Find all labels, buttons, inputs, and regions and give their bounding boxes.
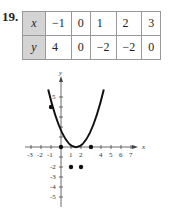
table-cell: −1	[46, 12, 72, 36]
svg-text:5: 5	[52, 93, 56, 101]
svg-text:1: 1	[69, 151, 73, 159]
svg-text:-2: -2	[37, 151, 43, 159]
table-cell: 2	[116, 12, 142, 36]
table-cell: −2	[116, 36, 142, 60]
svg-text:-3: -3	[50, 173, 56, 181]
row-header-y: y	[23, 36, 46, 60]
svg-text:2: 2	[79, 151, 83, 159]
table-cell: 3	[142, 12, 161, 36]
table-cell: 0	[71, 12, 90, 36]
parabola-curve	[48, 90, 104, 148]
point-marker	[59, 145, 63, 149]
svg-text:-2: -2	[50, 163, 56, 171]
svg-text:-1: -1	[47, 151, 53, 159]
table-cell: 0	[142, 36, 161, 60]
xy-value-table: x −1 0 1 2 3 y 4 0 −2 −2 0	[22, 11, 161, 60]
svg-text:7: 7	[129, 151, 133, 159]
table-cell: −2	[90, 36, 116, 60]
x-tick-labels: -3 -2 -1 1 2 4 5 6 7	[27, 151, 133, 159]
point-marker	[89, 145, 93, 149]
x-axis-label: x	[141, 143, 146, 151]
table-cell: 0	[71, 36, 90, 60]
table-cell: 4	[46, 36, 72, 60]
point-marker	[69, 165, 73, 169]
svg-text:-5: -5	[50, 193, 56, 201]
row-header-x: x	[23, 12, 46, 36]
svg-text:-3: -3	[27, 151, 33, 159]
table-cell: 1	[90, 12, 116, 36]
parabola-graph: x y -3 -2 -1 1 2 4 5 6 7 5 -2 -3 -4 -5	[0, 70, 177, 211]
table-row-x: x −1 0 1 2 3	[23, 12, 161, 36]
table-row-y: y 4 0 −2 −2 0	[23, 36, 161, 60]
point-marker	[49, 105, 53, 109]
svg-text:5: 5	[109, 151, 113, 159]
x-axis-arrow-icon	[132, 145, 138, 149]
problem-number: 19.	[2, 9, 18, 25]
point-marker	[79, 165, 83, 169]
y-axis-label: y	[58, 70, 63, 77]
svg-text:-4: -4	[50, 183, 56, 191]
svg-text:4: 4	[99, 151, 103, 159]
svg-text:6: 6	[119, 151, 123, 159]
